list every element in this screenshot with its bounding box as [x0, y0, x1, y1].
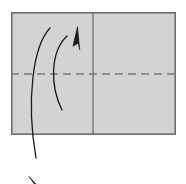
origami-diagram: [0, 0, 186, 184]
figure-canvas: [0, 0, 186, 184]
